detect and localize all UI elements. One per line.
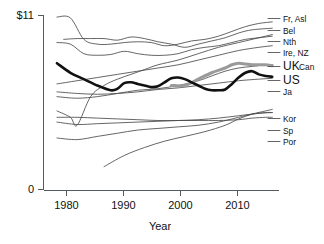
series-line-bel [64, 28, 273, 47]
legend-label-us: US [283, 73, 300, 87]
legend-label-sp: Sp [283, 126, 294, 136]
x-tick-label-1990: 1990 [111, 199, 135, 211]
series-line-por [57, 117, 272, 120]
legend-label-nth: Nth [283, 37, 296, 47]
x-tick-label-1980: 1980 [54, 199, 78, 211]
series-line-fr-asl [57, 16, 272, 46]
legend-label-kor: Kor [283, 114, 296, 124]
y-axis: $11 0 [16, 9, 43, 195]
x-tick-label-2010: 2010 [225, 199, 249, 211]
y-tick-label-bottom: 0 [28, 183, 34, 195]
chart-canvas: $11 0 1980 1990 2000 2010 Year Fr, Asl B… [0, 0, 324, 244]
x-axis: 1980 1990 2000 2010 Year [44, 191, 280, 233]
series-line-kor [104, 109, 272, 166]
series-line-sp [57, 112, 272, 139]
line-chart: $11 0 1980 1990 2000 2010 Year Fr, Asl B… [0, 0, 324, 244]
x-tick-label-2000: 2000 [168, 199, 192, 211]
series-line-ire-nz [57, 46, 272, 84]
x-axis-title: Year [149, 220, 172, 232]
legend-label-bel: Bel [283, 26, 295, 36]
legend-label-ire-nz: Ire, NZ [283, 48, 309, 58]
y-tick-label-top: $11 [16, 9, 34, 21]
legend-label-por: Por [283, 137, 296, 147]
chart-legend: Fr, Asl Bel Nth Ire, NZ UK Can US Ja Kor… [283, 14, 315, 147]
series-layer [57, 16, 280, 167]
legend-label-ja: Ja [283, 87, 292, 97]
legend-label-fr-asl: Fr, Asl [283, 14, 306, 24]
legend-label-can: Can [299, 62, 315, 72]
legend-label-uk: UK [283, 59, 300, 73]
